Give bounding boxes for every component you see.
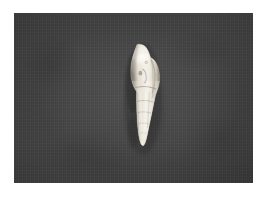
photograph-frame xyxy=(0,0,267,197)
shell-cast-shadow xyxy=(112,41,178,175)
photograph-plate xyxy=(14,13,253,183)
